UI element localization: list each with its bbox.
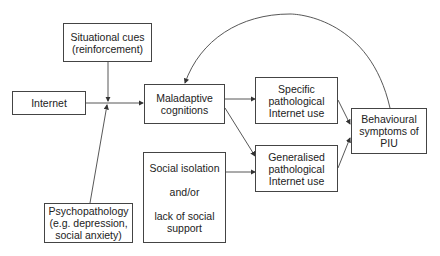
node-internet: Internet [12,91,86,115]
node-generalised-piu: Generalised pathological Internet use [255,145,338,192]
node-maladaptive-cognitions: Maladaptive cognitions [144,84,225,124]
node-social-isolation: Social isolation and/or lack of social s… [143,152,226,243]
edge-specific-behavioural [338,100,350,124]
node-behavioural-symptoms: Behavioural symptoms of PIU [351,108,427,154]
edge-maladaptive-generalised [225,108,255,156]
node-situational-cues: Situational cues (reinforcement) [63,23,152,62]
node-psychopathology: Psychopathology (e.g. depression, social… [44,203,133,243]
edge-generalised-behavioural [338,138,350,168]
node-specific-piu: Specific pathological Internet use [255,77,338,124]
edge-psycho-junction [90,105,107,203]
